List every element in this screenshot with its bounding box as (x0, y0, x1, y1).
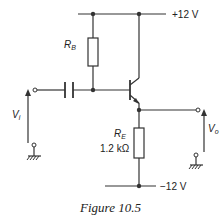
circuit-diagram: +12 V −12 V RB RE 1.2 kΩ Vi Vo Figure 10… (0, 0, 224, 219)
circuit-figure: +12 V −12 V RB RE 1.2 kΩ Vi Vo Figure 10… (0, 0, 224, 219)
re-value: 1.2 kΩ (100, 143, 130, 154)
vin-arrowhead-icon (25, 89, 31, 96)
vout-arrowhead-icon (201, 109, 207, 116)
figure-caption: Figure 10.5 (79, 200, 141, 215)
ground-hatching (27, 156, 201, 169)
rb-label: RB (64, 39, 76, 51)
re-label: RE (114, 128, 126, 140)
vout-label: Vo (208, 123, 219, 135)
positive-supply-label: +12 V (172, 9, 199, 20)
re-resistor (134, 128, 144, 158)
rb-resistor (88, 38, 98, 66)
transistor-collector (130, 78, 139, 85)
vin-label: Vi (12, 109, 21, 121)
negative-supply-label: −12 V (160, 181, 187, 192)
